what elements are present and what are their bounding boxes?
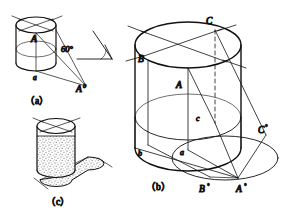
angle-value-label: 60° bbox=[61, 44, 74, 54]
panel-a-label-a: a bbox=[33, 73, 37, 82]
panel-b-top-chord-BC bbox=[141, 29, 222, 57]
panel-b-label-A0-sup: ° bbox=[244, 183, 247, 189]
panel-b-label-A: A bbox=[175, 80, 182, 90]
panel-a-chord-ext-left bbox=[12, 16, 22, 20]
panel-a-ray-edge bbox=[56, 30, 86, 86]
panel-b-top-chord-2 bbox=[141, 31, 227, 62]
figure-root: A a A 0 （a） 60° bbox=[0, 0, 285, 221]
panel-b-label-B0-sup: ° bbox=[207, 183, 210, 189]
panel-b-chord-ext-left bbox=[128, 26, 146, 33]
angle-hypotenuse bbox=[93, 31, 112, 59]
panel-a-label-A: A bbox=[30, 34, 37, 44]
panel-a-ray-top bbox=[36, 33, 86, 86]
panel-c: （c） bbox=[33, 118, 112, 207]
panel-a-label-A0-sup: 0 bbox=[83, 83, 86, 89]
panel-c-chord-ext-left bbox=[33, 118, 43, 122]
panel-b-label-a: a bbox=[180, 148, 184, 157]
panel-b-bottom-arc bbox=[135, 148, 241, 171]
panel-b: C B A c b a C ° B ° A ° （b） bbox=[126, 16, 278, 194]
panel-c-chord-ext-right bbox=[69, 118, 80, 122]
panel-b-label-C0-base: C bbox=[258, 125, 265, 135]
angle-arc bbox=[101, 50, 106, 59]
panel-c-caption: （c） bbox=[46, 196, 70, 207]
panel-a: A a A 0 （a） bbox=[12, 16, 86, 106]
panel-a-label-A0-base: A bbox=[75, 84, 82, 94]
panel-b-line-A-c bbox=[188, 68, 215, 123]
cylinder-shadow-diagram: A a A 0 （a） 60° bbox=[0, 0, 285, 221]
panel-b-label-C0-sup: ° bbox=[265, 124, 268, 130]
panel-b-label-B: B bbox=[138, 54, 144, 64]
panel-b-ray-c-to-A0 bbox=[215, 123, 238, 178]
panel-b-label-B0-base: B bbox=[199, 184, 205, 194]
panel-b-label-C: C bbox=[206, 16, 213, 26]
panel-a-chord-ext-right bbox=[52, 16, 62, 20]
panel-a-caption: （a） bbox=[25, 95, 49, 106]
panel-b-label-b: b bbox=[138, 149, 142, 158]
panel-b-ray-a-to-A0 bbox=[188, 150, 238, 178]
panel-b-label-c: c bbox=[196, 114, 200, 123]
panel-b-label-A0-base: A bbox=[235, 184, 242, 194]
panel-b-ray-A0-to-C0 bbox=[238, 135, 266, 178]
panel-b-chord-ext-right2 bbox=[223, 60, 246, 68]
panel-b-caption: （b） bbox=[146, 181, 171, 192]
light-angle-symbol: 60° bbox=[61, 31, 112, 59]
